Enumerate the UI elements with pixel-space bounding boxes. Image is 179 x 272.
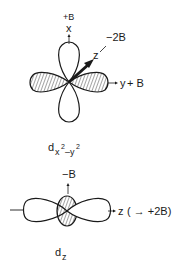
lobe-down [59,82,80,122]
dx2-y2-orbital: +B x −2B z y + B d x 2 – y 2 [30,12,144,157]
dx2-y2-caption: d x 2 – y 2 [48,141,80,157]
z-axis-value: −2B [106,31,126,43]
x-axis-label: x [66,22,72,34]
y-axis-label: y [120,77,126,89]
lobe-left-hatched [30,72,69,92]
caption-sub-y: y [70,147,75,157]
top-value: −B [62,168,76,180]
z-axis-label: z [118,205,124,217]
caption-sub-x: x [55,147,60,157]
orbital-diagram-canvas: +B x −2B z y + B d x 2 – y 2 [0,0,179,272]
caption-sup-2b: 2 [76,143,80,150]
y-axis-arrow-icon [108,82,118,85]
caption-sub-z: z [62,252,67,262]
dz2-caption: d z [55,246,67,262]
caption-base: d [48,141,54,153]
caption-base: d [55,246,61,258]
z-axis-label: z [93,49,99,61]
x-axis-value: +B [63,12,74,22]
top-arrow-icon [67,183,70,194]
dz2-orbital: −B z ( → +2B) d z [10,168,171,262]
z-axis-value: ( → +2B) [127,205,171,217]
y-axis-value: + B [127,77,144,89]
